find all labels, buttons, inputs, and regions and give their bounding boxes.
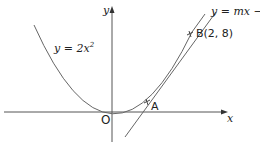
parabola-curve [34,25,192,114]
x-axis-label: x [227,113,233,124]
y-axis-arrow-icon [110,6,115,13]
parabola-label-prefix: y = 2 [54,42,83,55]
point-a-label: A [151,101,159,112]
parabola-label: y = 2x2 [54,42,94,54]
parabola-label-exp: 2 [90,41,94,49]
point-b-label: B(2, 8) [196,28,233,39]
line-label: y = mx − 2 [211,6,260,17]
origin-label: O [101,114,110,126]
diagram-canvas: y x O y = 2x2 y = mx − 2 B(2, 8) A [0,0,260,145]
diagram-graphics [0,0,260,145]
y-axis-label: y [103,5,109,16]
